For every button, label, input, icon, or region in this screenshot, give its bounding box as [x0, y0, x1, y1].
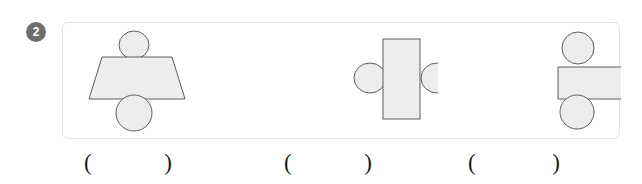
- paren-close: ): [552, 151, 560, 174]
- answer-slot-1[interactable]: ( ): [84, 143, 172, 181]
- vertical-rectangle-icon: [383, 39, 420, 119]
- circle-bottom-icon: [116, 95, 152, 131]
- answer-input-1[interactable]: [92, 162, 165, 163]
- circle-left-icon: [354, 63, 386, 93]
- circle-right-icon: [421, 63, 438, 93]
- circle-bottom-icon: [560, 95, 594, 129]
- worksheet-question-block: 2 ( ): [0, 0, 642, 184]
- circle-top-icon: [562, 32, 594, 64]
- paren-open: (: [84, 151, 92, 174]
- shape-group-3[interactable]: [438, 23, 621, 140]
- shapes-panel: [62, 22, 620, 139]
- isosceles-trapezoid-icon: [89, 57, 185, 99]
- answer-row: ( ) ( ) ( ): [62, 143, 620, 181]
- circle-top-icon: [119, 31, 149, 59]
- paren-close: ): [164, 151, 172, 174]
- answer-slot-2[interactable]: ( ): [284, 143, 372, 181]
- right-trapezoid-icon: [558, 67, 621, 99]
- shape-group-1[interactable]: [63, 23, 253, 140]
- question-number-badge: 2: [26, 22, 46, 42]
- paren-open: (: [284, 151, 292, 174]
- paren-open: (: [468, 151, 476, 174]
- answer-input-2[interactable]: [292, 162, 365, 163]
- shape-group-2[interactable]: [253, 23, 438, 140]
- answer-slot-3[interactable]: ( ): [468, 143, 560, 181]
- answer-input-3[interactable]: [476, 162, 553, 163]
- paren-close: ): [364, 151, 372, 174]
